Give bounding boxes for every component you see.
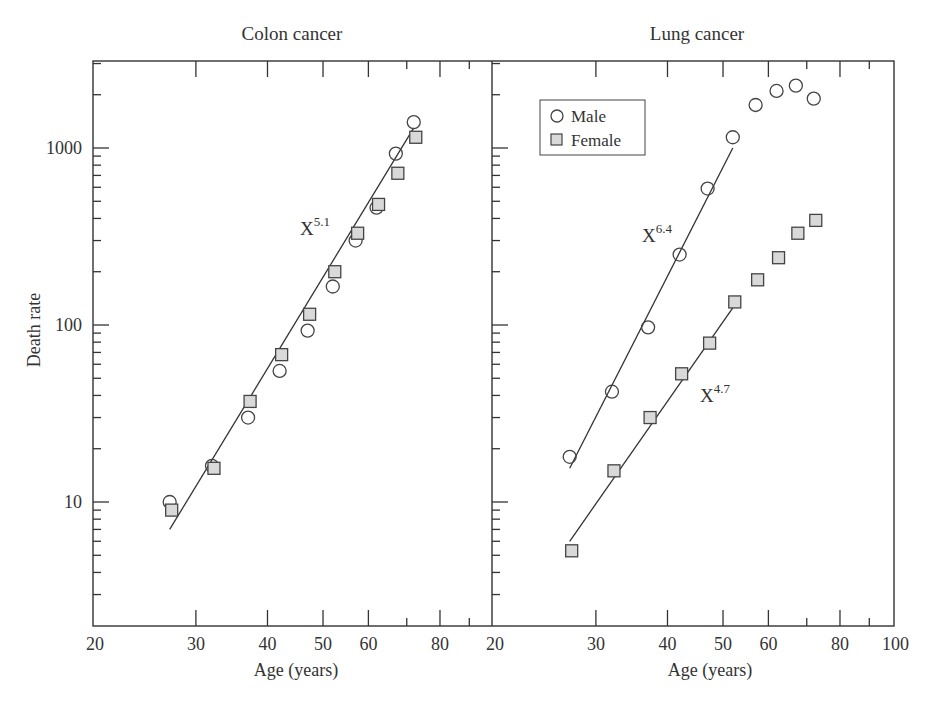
male-point [242, 411, 255, 424]
fit-label-colon: X5.1 [300, 214, 330, 239]
female-point [352, 227, 364, 239]
svg-text:80: 80 [431, 634, 449, 654]
svg-text:50: 50 [314, 634, 332, 654]
male-point [326, 280, 339, 293]
svg-text:60: 60 [359, 634, 377, 654]
male-legend-marker-icon [551, 110, 563, 122]
female-point [676, 368, 688, 380]
x-axis-label-left: Age (years) [254, 660, 338, 681]
female-point [644, 412, 656, 424]
svg-text:100: 100 [882, 634, 909, 654]
axes [93, 61, 894, 626]
svg-text:40: 40 [258, 634, 276, 654]
female-point [392, 167, 404, 179]
y-axis-label: Death rate [24, 293, 44, 367]
female-point [304, 308, 316, 320]
fit-label-lung-male: X6.4 [642, 221, 672, 246]
legend-label-female: Female [571, 131, 621, 150]
female-point [244, 395, 256, 407]
male-point [673, 248, 686, 261]
male-point [301, 324, 314, 337]
svg-text:100: 100 [55, 315, 82, 335]
fit-label-lung-female: X4.7 [700, 381, 730, 406]
male-point [605, 385, 618, 398]
svg-text:1000: 1000 [46, 138, 82, 158]
lung-panel-title: Lung cancer [650, 23, 745, 44]
legend: Male Female [540, 100, 645, 155]
female-point [773, 252, 785, 264]
death-rate-figure: Colon cancer Lung cancer Death rate Age … [0, 0, 933, 702]
female-point [373, 198, 385, 210]
female-point [752, 274, 764, 286]
male-point [770, 84, 783, 97]
female-point [276, 349, 288, 361]
svg-text:40: 40 [658, 634, 676, 654]
svg-text:30: 30 [187, 634, 205, 654]
female-point [166, 504, 178, 516]
female-point [566, 545, 578, 557]
female-point [208, 462, 220, 474]
male-point [807, 92, 820, 105]
male-point [273, 364, 286, 377]
female-point [608, 465, 620, 477]
svg-text:10: 10 [64, 492, 82, 512]
male-point [563, 450, 576, 463]
female-point [810, 214, 822, 226]
female-point [729, 296, 741, 308]
svg-text:60: 60 [759, 634, 777, 654]
male-point [726, 131, 739, 144]
female-legend-marker-icon [551, 134, 562, 145]
female-point [704, 337, 716, 349]
female-point [410, 131, 422, 143]
female-point [329, 266, 341, 278]
svg-text:20: 20 [486, 634, 504, 654]
tick-labels: 100010010203040506080203040506080100 [46, 138, 909, 654]
male-point [789, 79, 802, 92]
colon-panel-title: Colon cancer [242, 23, 343, 44]
male-point [749, 98, 762, 111]
fit-lines [170, 128, 733, 541]
svg-text:20: 20 [86, 634, 104, 654]
male-point [642, 321, 655, 334]
male-point [407, 116, 420, 129]
female-point [792, 227, 804, 239]
legend-label-male: Male [571, 107, 606, 126]
svg-text:30: 30 [587, 634, 605, 654]
svg-text:80: 80 [831, 634, 849, 654]
svg-text:50: 50 [714, 634, 732, 654]
x-axis-label-right: Age (years) [668, 660, 752, 681]
